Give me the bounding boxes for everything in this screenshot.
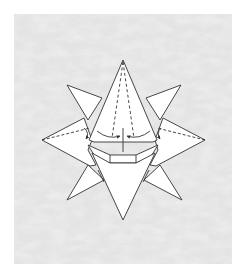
star-diagram-svg <box>0 0 245 280</box>
origami-diagram <box>0 0 245 280</box>
